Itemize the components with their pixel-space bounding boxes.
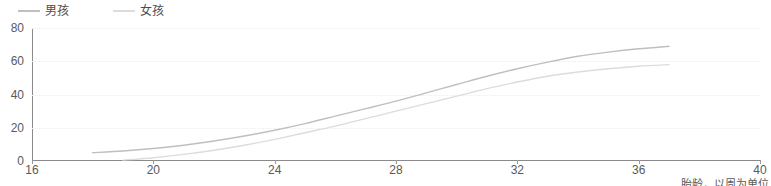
x-tick-24: 24 [268, 163, 281, 177]
x-tick-36: 36 [632, 163, 645, 177]
y-tick-80: 80 [11, 22, 24, 34]
legend-label-girls: 女孩 [140, 4, 164, 18]
x-axis-tick-labels: 16202428323640 [32, 163, 760, 181]
chart-legend: 男孩 女孩 [18, 3, 164, 19]
x-tick-20: 20 [147, 163, 160, 177]
series-curves [32, 28, 760, 161]
gestational-age-growth-chart: 男孩 女孩 020406080 16202428323640 胎龄，以周为单位 [0, 0, 771, 186]
curve-girls [123, 65, 669, 161]
y-tick-20: 20 [11, 122, 24, 134]
x-tick-16: 16 [25, 163, 38, 177]
x-axis-title: 胎龄，以周为单位 [681, 175, 769, 186]
x-tick-28: 28 [389, 163, 402, 177]
x-tick-32: 32 [511, 163, 524, 177]
legend-item-boys[interactable]: 男孩 [18, 4, 69, 18]
y-tick-40: 40 [11, 89, 24, 101]
y-tick-60: 60 [11, 55, 24, 67]
legend-label-boys: 男孩 [45, 4, 69, 18]
y-axis-tick-labels: 020406080 [0, 28, 28, 161]
legend-line-girls [113, 10, 135, 12]
legend-line-boys [18, 10, 40, 12]
curve-boys [93, 46, 669, 152]
plot-area [32, 28, 760, 161]
legend-item-girls[interactable]: 女孩 [113, 4, 164, 18]
y-tick-0: 0 [17, 155, 24, 167]
